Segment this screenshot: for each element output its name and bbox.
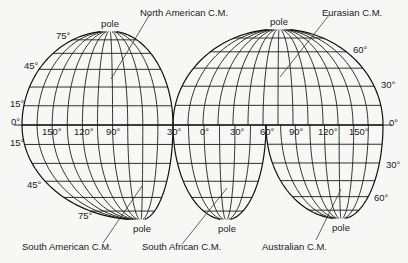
lat-label-s60: 60° — [374, 193, 388, 203]
meridian-line — [284, 30, 323, 125]
lon-label-30w: 30° — [167, 127, 181, 137]
eu-pole-label: pole — [270, 17, 288, 27]
lon-label-90e: 90° — [289, 127, 303, 137]
lon-label-90w: 90° — [106, 127, 120, 137]
lat-label-n15: 15° — [10, 99, 24, 109]
lat-label-n30: 30° — [381, 80, 395, 90]
meridian-line — [233, 30, 274, 125]
meridian-line — [339, 125, 341, 218]
meridian-line — [325, 125, 340, 218]
meridian-line — [52, 125, 131, 219]
lon-label-60e: 60° — [260, 127, 274, 137]
meridian-line — [141, 125, 143, 219]
meridian-line — [278, 30, 279, 125]
meridian-line — [227, 125, 235, 219]
meridian-line — [112, 32, 128, 125]
sa-pole-label: pole — [133, 224, 151, 234]
meridian-line — [188, 30, 269, 125]
south-american-lobe-outline — [145, 125, 173, 219]
australian-cm-label: Australian C.M. — [262, 242, 327, 252]
lat-label-n45: 45° — [24, 61, 38, 71]
north-american-lobe-outline — [22, 32, 100, 125]
meridian-line — [286, 30, 338, 125]
lat-label-s30: 30° — [386, 160, 400, 170]
meridian-line — [189, 125, 222, 219]
saf-leader-line — [183, 188, 227, 243]
lon-label-150e: 150° — [349, 127, 369, 137]
meridian-line — [114, 32, 143, 125]
meridian-line — [287, 30, 353, 125]
meridian-line — [98, 32, 109, 125]
meridian-line — [281, 30, 293, 125]
lon-label-120e: 120° — [318, 127, 338, 137]
lon-label-150w: 150° — [42, 127, 62, 137]
meridian-line — [37, 32, 102, 125]
south-african-cm-label: South African C.M. — [142, 242, 221, 252]
meridian-line — [203, 30, 270, 125]
meridian-line — [342, 125, 353, 218]
meridian-line — [82, 125, 134, 219]
eurasian-lobe-outline — [173, 30, 267, 125]
eurasian-cm-label: Eurasian C.M. — [322, 8, 382, 18]
lat-label-n60: 60° — [353, 45, 367, 55]
lat-label-eq-left: 0° — [11, 117, 20, 127]
saf-pole-label: pole — [218, 224, 236, 234]
au-pole-label: pole — [332, 223, 350, 233]
lat-label-s75: 75° — [78, 211, 92, 221]
meridian-line — [128, 125, 140, 219]
lon-label-0: 0° — [200, 127, 209, 137]
north-american-cm-label: North American C.M. — [140, 8, 228, 18]
lat-label-eq-right: 0° — [389, 118, 398, 128]
lat-label-n75: 75° — [56, 31, 70, 41]
meridian-line — [220, 125, 226, 219]
lon-label-120w: 120° — [74, 127, 94, 137]
meridian-line — [52, 32, 103, 125]
australian-lobe-outline — [266, 125, 333, 218]
na-pole-label: pole — [101, 19, 119, 29]
south-african-lobe-outline — [231, 125, 266, 219]
meridian-line — [248, 30, 276, 125]
lat-label-s45: 45° — [27, 180, 41, 190]
meridian-line — [281, 125, 335, 218]
lon-label-30e: 30° — [230, 127, 244, 137]
meridian-line — [218, 30, 272, 125]
meridian-line — [143, 125, 158, 219]
meridian-line — [115, 32, 157, 125]
lat-label-s15: 15° — [10, 138, 24, 148]
meridian-line — [263, 30, 277, 125]
south-american-cm-label: South American C.M. — [22, 242, 112, 252]
